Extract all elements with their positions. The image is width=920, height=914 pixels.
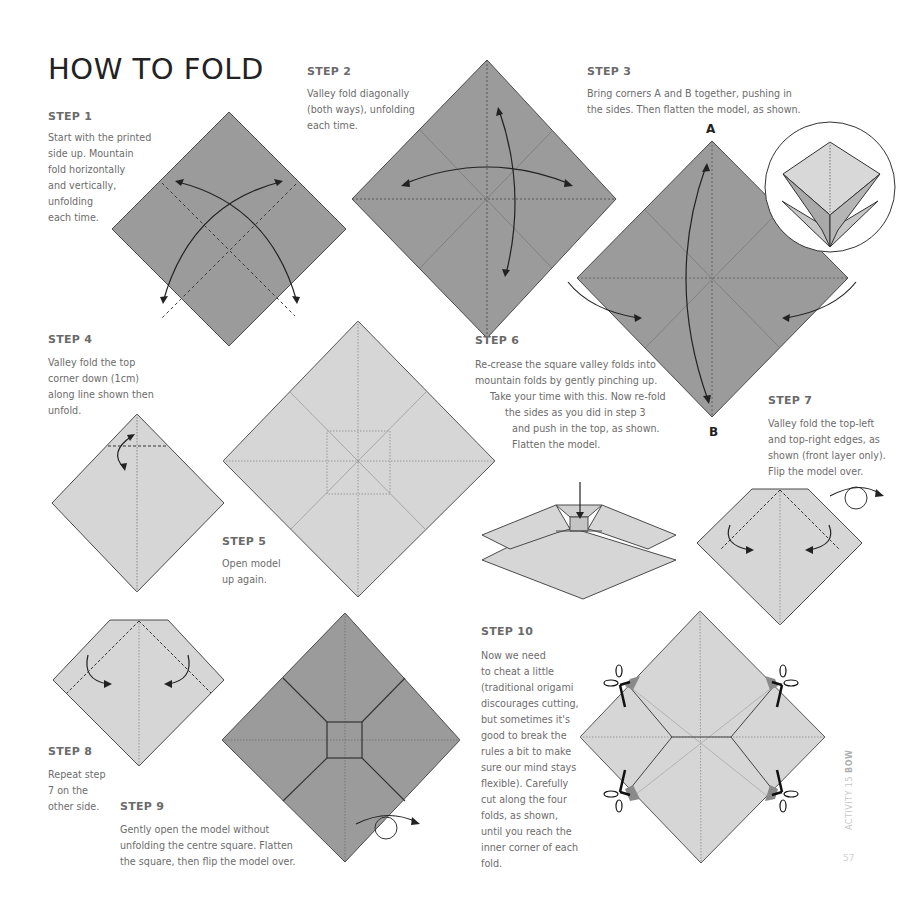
step-10-diagram <box>0 0 920 914</box>
activity-label: ACTIVITY 15 BOW <box>845 750 854 830</box>
page-number: 57 <box>843 853 854 863</box>
